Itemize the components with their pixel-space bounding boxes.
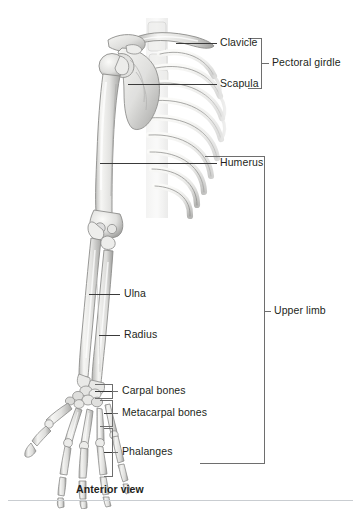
skeleton-illustration [0,0,361,509]
label-upper-limb: Upper limb [274,305,326,316]
label-metacarpal-bones: Metacarpal bones [122,407,207,418]
label-carpal-bones: Carpal bones [122,385,186,396]
label-pectoral-girdle: Pectoral girdle [272,57,341,68]
label-scapula: Scapula [220,78,259,89]
label-ulna: Ulna [124,288,146,299]
caption-anterior-view: Anterior view [76,484,144,495]
carpal-bones [65,386,102,408]
metacarpal-bones [45,403,118,451]
label-radius: Radius [124,329,157,340]
humerus-bone [90,54,129,239]
phalanges-bones [25,426,131,509]
label-clavicle: Clavicle [220,37,258,48]
label-phalanges: Phalanges [122,446,173,457]
anatomy-figure: Clavicle Scapula Pectoral girdle Humerus… [0,0,361,509]
label-humerus: Humerus [220,157,263,168]
